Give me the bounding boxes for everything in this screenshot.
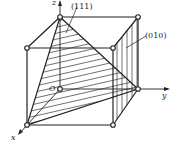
hatch-line: [0, 138, 176, 146]
plane-010-label: (010): [145, 31, 167, 40]
unit-cell-diagram: (111) (010) O y x z: [0, 0, 176, 146]
hatch-line: [0, 132, 176, 146]
z-axis-label: z: [51, 0, 57, 7]
plane-111-outline: [27, 17, 138, 125]
plane-111-label: (111): [71, 2, 93, 11]
hatch-line: [0, 126, 176, 146]
x-axis-label: x: [11, 133, 16, 142]
hatch-line: [0, 6, 176, 46]
plane-010-leader: [126, 36, 146, 48]
origin-label: O: [49, 84, 56, 93]
y-axis-label: y: [161, 91, 167, 100]
z-axis-arrow-icon: [58, 0, 62, 6]
